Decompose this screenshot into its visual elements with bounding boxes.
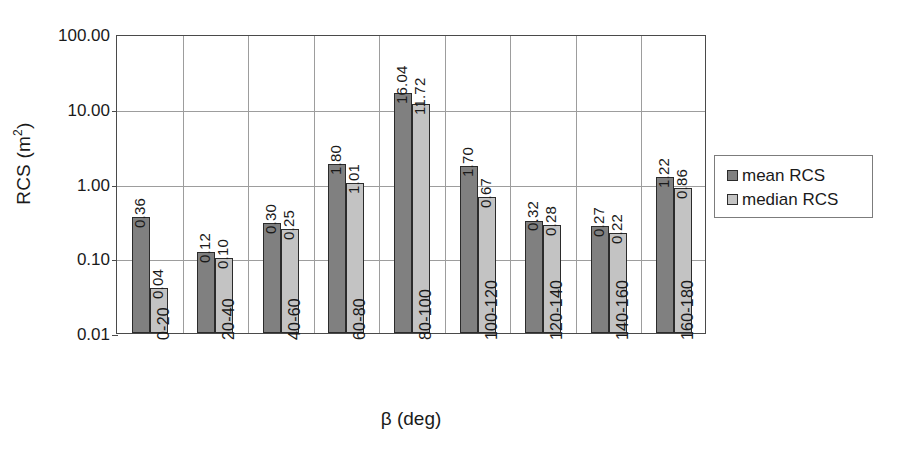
bar-value-label: 1.22	[656, 158, 671, 188]
bar-value-label: 0.86	[674, 169, 689, 199]
category-divider	[445, 36, 446, 333]
legend-item[interactable]: median RCS	[727, 187, 872, 211]
x-axis-tick-label: 120-140	[549, 280, 565, 340]
bar-value-label: 0.32	[525, 201, 540, 231]
bar	[328, 164, 346, 333]
bar	[591, 226, 609, 333]
x-axis-tick-label: 160-180	[680, 280, 696, 340]
bar-value-label: 0.36	[132, 198, 147, 228]
category-divider	[641, 36, 642, 333]
category-divider	[314, 36, 315, 333]
bar-value-label: 1.80	[328, 145, 343, 175]
category-divider	[379, 36, 380, 333]
x-axis-title: β (deg)	[116, 408, 706, 430]
x-axis-tick-label: 20-40	[221, 298, 237, 340]
chart-legend: mean RCSmedian RCS	[714, 155, 873, 218]
x-axis-tick-label: 60-80	[352, 298, 368, 340]
y-axis-tick-label: 10.00	[32, 102, 110, 119]
bar-value-label: 0.67	[478, 178, 493, 208]
legend-swatch-icon	[727, 170, 738, 181]
bar-value-label: 0.10	[215, 239, 230, 269]
bar-value-label: 0.04	[150, 269, 165, 299]
legend-label: median RCS	[742, 191, 838, 208]
bar-value-label: 0.25	[281, 210, 296, 240]
y-axis-tick-label: 0.01	[32, 326, 110, 343]
chart-container: RCS (m2) 100.0010.001.000.100.01 0.360.0…	[0, 0, 899, 457]
x-axis-tick-label: 140-160	[615, 280, 631, 340]
bar	[525, 221, 543, 334]
category-divider	[248, 36, 249, 333]
bar	[263, 223, 281, 333]
bar	[460, 166, 478, 333]
y-axis-tick-labels: 100.0010.001.000.100.01	[28, 0, 110, 457]
y-axis-tick-label: 100.00	[32, 27, 110, 44]
bar	[132, 217, 150, 333]
category-divider	[510, 36, 511, 333]
bar-value-label: 0.28	[543, 206, 558, 236]
x-axis-tick-label: 100-120	[484, 280, 500, 340]
category-divider	[576, 36, 577, 333]
bar-value-label: 1.70	[460, 147, 475, 177]
legend-label: mean RCS	[742, 167, 825, 184]
bar	[656, 177, 674, 333]
x-axis-tick-label: 0-20	[156, 307, 172, 340]
x-axis-tick-label: 40-60	[287, 298, 303, 340]
bar-value-label: 16.04	[394, 66, 409, 105]
y-axis-title-exponent: 2	[11, 129, 25, 136]
bar	[197, 252, 215, 333]
legend-item[interactable]: mean RCS	[727, 163, 872, 187]
x-axis-tick-label: 80-100	[418, 289, 434, 340]
legend-swatch-icon	[727, 194, 738, 205]
bar-value-label: 11.72	[412, 77, 427, 114]
category-divider	[183, 36, 184, 333]
bar-value-label: 1.01	[346, 164, 361, 194]
y-axis-tick-label: 1.00	[32, 177, 110, 194]
bar	[394, 93, 412, 333]
bar-value-label: 0.12	[197, 233, 212, 263]
bar-value-label: 0.22	[609, 214, 624, 244]
y-axis-tick-label: 0.10	[32, 251, 110, 268]
bar-value-label: 0.27	[591, 207, 606, 237]
bar-value-label: 0.30	[263, 204, 278, 234]
